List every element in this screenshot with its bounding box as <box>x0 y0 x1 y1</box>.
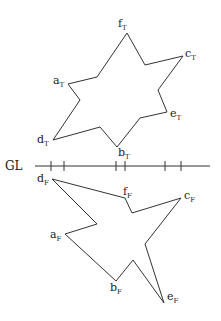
projection-diagram: fTcTaTeTdTbT GL dFfFcFaFbFeF <box>0 0 221 321</box>
vertex-label-dT: dT <box>37 133 49 148</box>
vertex-label-cF: cF <box>184 189 195 204</box>
front-view-labels: dFfFcFaFbFeF <box>37 172 195 305</box>
vertex-label-fT: fT <box>118 17 127 32</box>
vertex-label-aT: aT <box>53 74 65 89</box>
vertex-label-eT: eT <box>170 107 182 122</box>
ground-line-label: GL <box>5 159 23 173</box>
vertex-label-cT: cT <box>185 47 196 62</box>
vertex-label-fF: fF <box>123 185 132 200</box>
top-view-star <box>53 33 183 147</box>
vertex-label-dF: dF <box>37 172 49 187</box>
top-view-labels: fTcTaTeTdTbT <box>37 17 196 161</box>
vertex-label-aF: aF <box>50 228 62 243</box>
vertex-label-eF: eF <box>167 290 179 305</box>
vertex-label-bF: bF <box>110 281 122 296</box>
vertex-label-bT: bT <box>118 146 130 161</box>
